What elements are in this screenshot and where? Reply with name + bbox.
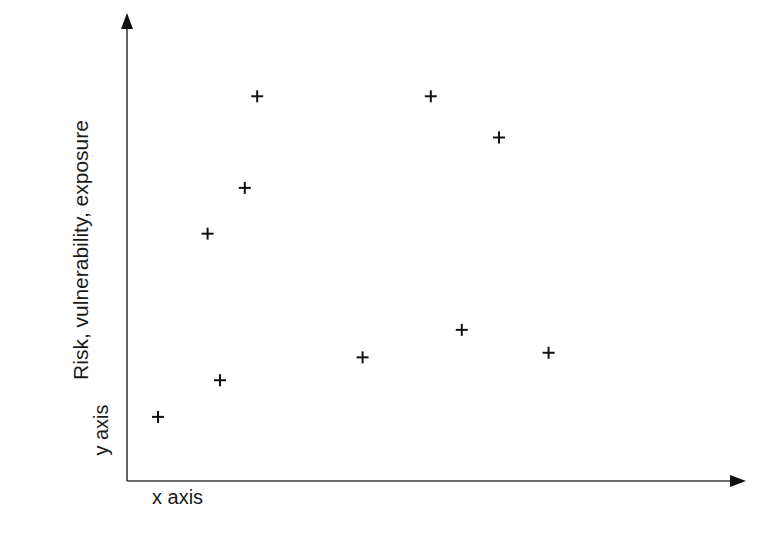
plus-marker-icon	[239, 182, 251, 194]
plus-marker-icon	[214, 374, 226, 386]
scatter-plot	[0, 0, 764, 537]
plus-marker-icon	[251, 90, 263, 102]
plus-marker-icon	[425, 90, 437, 102]
x-axis-label: x axis	[152, 486, 203, 509]
data-points	[152, 90, 555, 423]
plus-marker-icon	[357, 351, 369, 363]
plus-marker-icon	[152, 411, 164, 423]
plus-marker-icon	[493, 132, 505, 144]
y-axis-title: Risk, vulnerability, exposure	[69, 120, 93, 380]
plus-marker-icon	[543, 347, 555, 359]
x-axis-arrow-icon	[730, 475, 746, 487]
plus-marker-icon	[456, 324, 468, 336]
plus-marker-icon	[202, 228, 214, 240]
y-axis-label: y axis	[90, 404, 113, 455]
y-axis-arrow-icon	[121, 13, 133, 29]
